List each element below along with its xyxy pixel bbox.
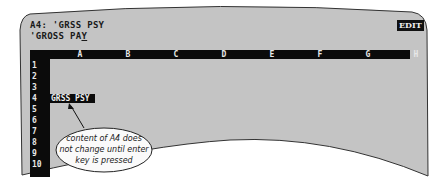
row-1-header[interactable]: 1 [32, 61, 37, 71]
row-3-header[interactable]: 3 [32, 83, 37, 93]
annotation-line-3: key is pressed [58, 155, 150, 166]
annotation-text: content of A4 does not change until ente… [58, 133, 150, 166]
row-9-header[interactable]: 9 [32, 149, 37, 159]
row-6-header[interactable]: 6 [32, 116, 37, 126]
row-8-header[interactable]: 8 [32, 138, 37, 148]
row-7-header[interactable]: 7 [32, 127, 37, 137]
row-4-header[interactable]: 4 [32, 94, 37, 104]
cell-a4[interactable]: GRSS PSY [50, 94, 95, 103]
row-10-header[interactable]: 10 [32, 160, 42, 170]
mode-indicator: EDIT [397, 20, 424, 31]
edit-text: 'GROSS PA [30, 31, 81, 41]
annotation-line-1: content of A4 does [58, 133, 150, 144]
annotation-callout: content of A4 does not change until ente… [58, 129, 150, 173]
column-h-header[interactable]: H [386, 50, 438, 59]
column-header-bar: A B C D E F G H [30, 50, 410, 59]
edit-cursor: Y [81, 31, 87, 41]
row-header-bar: 1 2 3 4 5 6 7 8 9 10 [30, 59, 50, 177]
row-2-header[interactable]: 2 [32, 72, 37, 82]
annotation-line-2: not change until enter [58, 144, 150, 155]
row-5-header[interactable]: 5 [32, 105, 37, 115]
edit-line[interactable]: 'GROSS PAY [30, 31, 87, 41]
cell-contents-line: A4: 'GRSS PSY [30, 20, 104, 30]
